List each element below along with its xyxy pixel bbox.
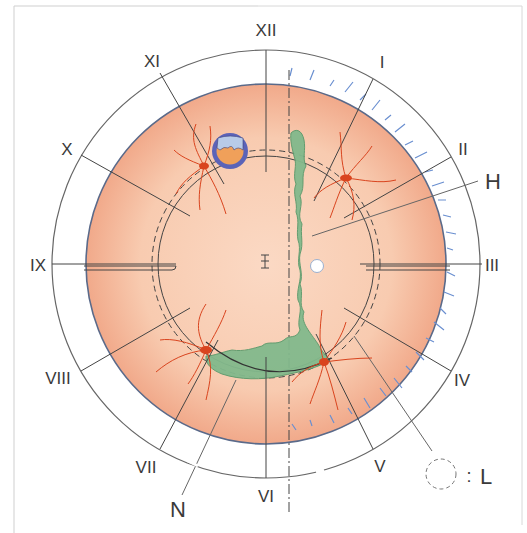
callout-n: N: [170, 497, 186, 522]
label-ix: IX: [30, 256, 46, 275]
label-iv: IV: [454, 371, 471, 390]
label-xi: XI: [144, 52, 160, 71]
label-xii: XII: [256, 21, 277, 40]
vessel-node-i: [340, 175, 352, 182]
label-i: I: [380, 53, 385, 72]
label-v: V: [374, 457, 386, 476]
callout-h: H: [485, 169, 501, 194]
callout-l: L: [480, 464, 492, 489]
legend-separator: :: [466, 466, 471, 486]
vessel-node-xi: [199, 163, 209, 170]
vessel-node-v: [319, 358, 329, 366]
label-ii: II: [458, 140, 467, 159]
label-iii: III: [485, 256, 499, 275]
label-viii: VIII: [45, 369, 71, 388]
legend-l-circle-icon: [426, 459, 456, 489]
ring-gap-right: [316, 470, 324, 472]
label-vii: VII: [136, 458, 157, 477]
optic-disc-dot: [311, 260, 324, 273]
retinal-tear-icon: [212, 133, 248, 169]
label-vi: VI: [258, 487, 274, 506]
label-x: X: [61, 140, 72, 159]
vessel-node-viii: [200, 346, 212, 354]
fundus-diagram: XII I II III IV V VI VII VIII IX X XI H …: [0, 0, 527, 533]
